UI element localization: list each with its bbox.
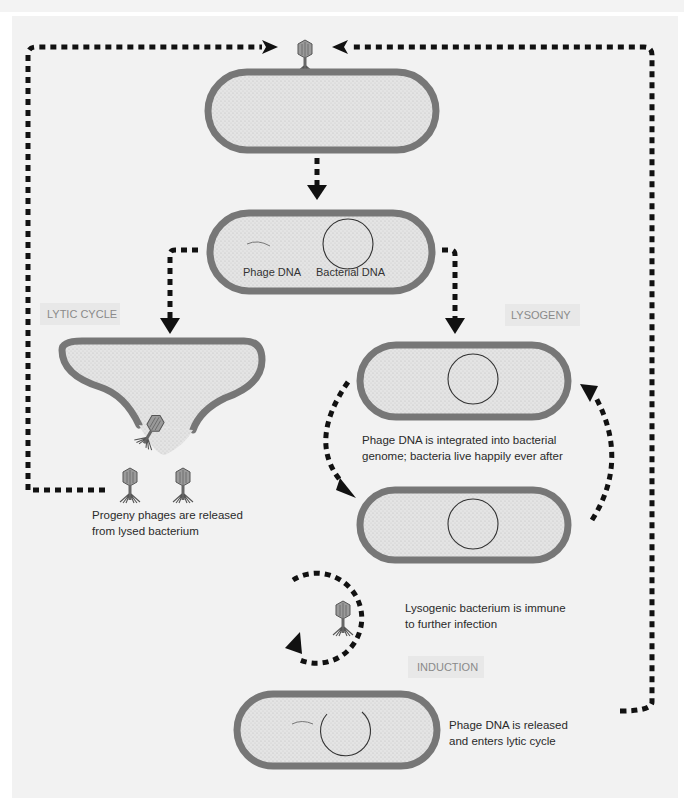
progeny-phage-icon — [173, 468, 193, 503]
arrowhead-icon — [285, 632, 302, 654]
integrated-caption-line2: genome; bacteria live happily ever after — [362, 450, 563, 462]
arrowhead-icon — [160, 318, 180, 334]
released-caption-line2: and enters lytic cycle — [449, 735, 556, 747]
arrowhead-icon — [332, 40, 348, 54]
bacterium-infected — [208, 72, 436, 150]
immune-caption-line2: to further infection — [405, 618, 497, 630]
arrowhead-icon — [580, 384, 598, 402]
bacterium-with-dna — [210, 213, 432, 291]
phage-lifecycle-diagram: Phage DNA Bacterial DNA LYTIC CYCLE LYSO… — [0, 0, 684, 798]
lysed-bacterium — [62, 341, 262, 430]
arrowhead-icon — [336, 478, 356, 498]
arrowhead-icon — [307, 185, 327, 200]
arrowhead-icon — [445, 318, 465, 334]
lytic-cycle-label: LYTIC CYCLE — [47, 308, 117, 320]
lysogeny-label: LYSOGENY — [511, 309, 571, 321]
progeny-phage-icon — [120, 468, 140, 503]
arrowhead-icon — [262, 40, 278, 54]
released-caption-line1: Phage DNA is released — [449, 719, 568, 731]
induction-label: INDUCTION — [417, 661, 478, 673]
phage-dna-label: Phage DNA — [243, 266, 302, 278]
immune-caption-line1: Lysogenic bacterium is immune — [405, 602, 566, 614]
induced-bacterium — [237, 694, 437, 766]
progeny-caption-line1: Progeny phages are released — [92, 509, 243, 521]
phage-icon — [333, 601, 353, 636]
integrated-caption-line1: Phage DNA is integrated into bacterial — [362, 434, 556, 446]
progeny-caption-line2: from lysed bacterium — [92, 525, 199, 537]
bacterial-dna-label: Bacterial DNA — [316, 266, 386, 278]
